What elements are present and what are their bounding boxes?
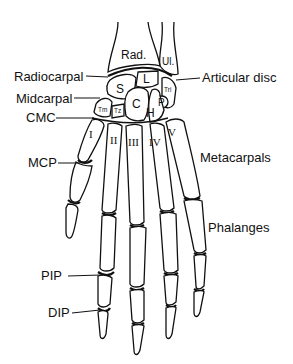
- proximal-phalanx-3: [130, 227, 146, 288]
- numeral-II: II: [110, 134, 118, 146]
- hamate-label: H: [146, 106, 155, 120]
- scaphoid-label: S: [116, 82, 124, 96]
- thumb-bones: [66, 119, 104, 238]
- numeral-III: III: [128, 136, 139, 148]
- cmc-label: CMC: [26, 110, 56, 125]
- trapezoid-label: Tz: [114, 107, 121, 114]
- lunate-label: L: [143, 72, 150, 86]
- middle-phalanx-5: [194, 255, 206, 290]
- proximal-phalanx-4: [160, 213, 178, 274]
- distal-phalanx-1: [66, 204, 78, 238]
- distal-phalanx-5: [194, 291, 204, 317]
- hand-skeleton-diagram: Rad. Ul. S L Tri P C H Tm Tz: [0, 0, 293, 364]
- midcarpal-label: Midcarpal: [16, 91, 72, 106]
- middle-finger-bones: [126, 125, 146, 355]
- trapezium-label: Tm: [98, 106, 107, 113]
- numeral-IV: IV: [149, 136, 161, 148]
- capitate-label: C: [132, 97, 141, 111]
- articular-disc-label: Articular disc: [202, 70, 277, 85]
- distal-phalanx-3: [132, 325, 144, 355]
- dip-label: DIP: [48, 305, 70, 320]
- metacarpals-label: Metacarpals: [200, 150, 271, 165]
- numeral-V: V: [168, 126, 176, 138]
- radius-label: Rad.: [121, 48, 146, 62]
- index-finger-bones: [98, 123, 122, 338]
- pip-label: PIP: [41, 268, 62, 283]
- mcp-label: MCP: [28, 155, 57, 170]
- middle-phalanx-4: [164, 275, 178, 306]
- distal-phalanx-4: [166, 307, 176, 339]
- radiocarpal-label: Radiocarpal: [14, 69, 83, 84]
- middle-phalanx-3: [130, 290, 144, 324]
- ulna-label: Ul.: [162, 56, 174, 67]
- triquetrum-label: Tri: [164, 86, 171, 93]
- articular-disc-leader: [176, 78, 200, 80]
- dip-leader: [72, 310, 100, 313]
- phalanges-label: Phalanges: [208, 220, 270, 235]
- metacarpal-1: [78, 119, 104, 162]
- proximal-phalanx-2: [100, 215, 116, 271]
- proximal-phalanx-5: [184, 200, 206, 254]
- radius-bone: [108, 22, 160, 72]
- pisiform-label: P: [158, 97, 165, 108]
- numeral-I: I: [89, 128, 93, 140]
- pip-leader: [68, 275, 100, 276]
- distal-phalanx-2: [98, 311, 108, 339]
- middle-phalanx-2: [98, 275, 112, 307]
- proximal-phalanx-1: [70, 162, 92, 202]
- radiocarpal-leader: [86, 76, 108, 77]
